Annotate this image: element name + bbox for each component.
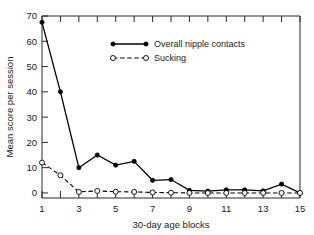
data-point-2 — [224, 190, 229, 195]
data-point-1 — [40, 20, 44, 24]
legend-label-2: Sucking — [154, 53, 186, 63]
data-point-2 — [279, 190, 284, 195]
y-tick-label: 10 — [26, 162, 37, 173]
data-point-2 — [113, 189, 118, 194]
data-point-1 — [77, 166, 81, 170]
x-tick-label: 5 — [113, 203, 118, 214]
y-tick-label: 40 — [26, 86, 37, 97]
y-tick-label: 70 — [26, 10, 37, 21]
data-point-2 — [132, 189, 137, 194]
y-tick-label: 30 — [26, 112, 37, 123]
legend-marker-2 — [144, 56, 149, 61]
data-point-2 — [187, 190, 192, 195]
data-point-2 — [242, 190, 247, 195]
data-point-2 — [58, 173, 63, 178]
x-tick-label: 1 — [39, 203, 44, 214]
y-tick-label: 20 — [26, 137, 37, 148]
data-point-2 — [298, 190, 303, 195]
x-axis-title: 30-day age blocks — [132, 219, 209, 230]
y-axis-title: Mean score per session — [4, 57, 15, 158]
line-chart: 1357911131501020304050607030-day age blo… — [0, 0, 314, 235]
x-tick-label: 3 — [76, 203, 81, 214]
y-tick-label: 50 — [26, 61, 37, 72]
data-point-1 — [132, 159, 136, 163]
y-tick-label: 60 — [26, 36, 37, 47]
data-point-2 — [169, 190, 174, 195]
x-tick-label: 13 — [258, 203, 269, 214]
data-point-1 — [279, 182, 283, 186]
data-point-1 — [95, 153, 99, 157]
data-point-2 — [95, 188, 100, 193]
data-point-2 — [150, 190, 155, 195]
y-tick-label: 0 — [32, 187, 37, 198]
data-point-1 — [150, 178, 154, 182]
legend-marker-2 — [111, 56, 116, 61]
x-tick-label: 11 — [221, 203, 231, 214]
data-point-2 — [205, 190, 210, 195]
x-tick-label: 15 — [295, 203, 306, 214]
x-tick-label: 7 — [150, 203, 155, 214]
legend-marker-1 — [144, 42, 148, 46]
data-point-1 — [114, 163, 118, 167]
x-tick-label: 9 — [187, 203, 192, 214]
chart-figure: 1357911131501020304050607030-day age blo… — [0, 0, 314, 235]
legend-label-1: Overall nipple contacts — [154, 39, 246, 49]
data-point-1 — [58, 90, 62, 94]
legend-marker-1 — [111, 42, 115, 46]
data-point-1 — [169, 177, 173, 181]
data-point-2 — [76, 189, 81, 194]
data-point-2 — [261, 190, 266, 195]
data-point-2 — [40, 160, 45, 165]
